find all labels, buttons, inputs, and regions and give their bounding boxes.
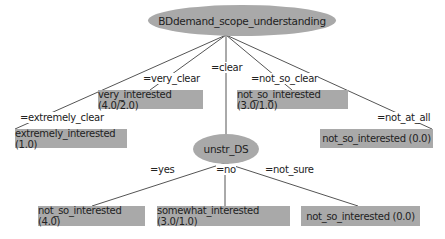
leaf-extremely-interested: extremely_interested (1.0) (15, 129, 127, 148)
edge-label-extremely-clear: =extremely_clear (20, 112, 104, 123)
leaf-label: not_so_interested (0.0) (322, 133, 431, 144)
unstr-ds-node: unstr_DS (193, 134, 259, 164)
root-node-label: BDdemand_scope_understanding (158, 15, 326, 27)
leaf-very-interested: very_interested (4.0/2.0) (98, 90, 203, 109)
edge-label-not-sure: =not_sure (265, 164, 314, 175)
edge-label-not-at-all: =not_at_all (377, 112, 430, 123)
edge-label-yes: =yes (150, 164, 174, 175)
leaf-label: not_so_interested (0.0) (306, 211, 415, 222)
edge-label-no: =no (216, 164, 236, 175)
leaf-label: not_so_interested (3.0/1.0) (237, 89, 348, 111)
leaf-label: somewhat_interested (3.0/1.0) (157, 205, 290, 227)
leaf-label: not_so_interested (4.0) (38, 205, 145, 227)
leaf-label: very_interested (4.0/2.0) (98, 89, 203, 111)
leaf-not-so-interested-not-at-all: not_so_interested (0.0) (320, 129, 433, 148)
edge-label-not-so-clear: =not_so_clear (251, 73, 318, 84)
leaf-label: extremely_interested (1.0) (15, 128, 127, 150)
unstr-ds-node-label: unstr_DS (204, 143, 249, 155)
leaf-not-so-interested-not-sure: not_so_interested (0.0) (301, 206, 420, 226)
root-node: BDdemand_scope_understanding (148, 5, 336, 36)
leaf-not-so-interested-not-so-clear: not_so_interested (3.0/1.0) (237, 90, 348, 109)
edge-label-very-clear: =very_clear (143, 73, 200, 84)
edge-label-clear: =clear (211, 62, 242, 73)
leaf-somewhat-interested-no: somewhat_interested (3.0/1.0) (157, 206, 290, 226)
leaf-not-so-interested-yes: not_so_interested (4.0) (38, 206, 145, 226)
